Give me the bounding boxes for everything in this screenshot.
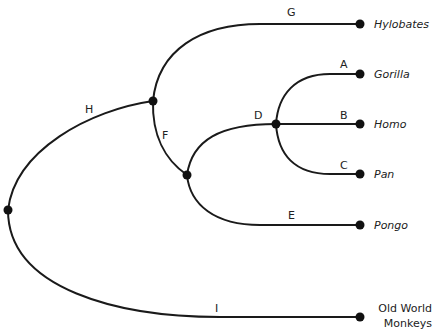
branch-g [153, 24, 360, 101]
branch-e [187, 175, 360, 225]
tip-pan [356, 170, 365, 179]
taxon-owm-line1: Old World [374, 302, 432, 317]
branch-d [187, 124, 276, 175]
branch-label-e: E [288, 210, 295, 221]
taxon-gorilla: Gorilla [374, 69, 410, 80]
taxon-old-world-monkeys: Old World Monkeys [374, 302, 432, 332]
root-node [4, 206, 13, 215]
branch-label-b: B [340, 110, 348, 121]
tip-hylobates [356, 20, 365, 29]
tip-owm [356, 313, 365, 322]
taxon-hylobates: Hylobates [374, 19, 429, 30]
branch-label-g: G [287, 7, 296, 18]
branch-f [153, 101, 187, 175]
tip-homo [356, 120, 365, 129]
branch-h [8, 101, 153, 210]
branch-label-d: D [254, 110, 262, 121]
branch-label-c: C [340, 160, 348, 171]
taxon-homo: Homo [374, 119, 406, 130]
node-h [149, 97, 158, 106]
branch-label-h: H [85, 104, 93, 115]
taxon-pan: Pan [374, 169, 394, 180]
node-d [272, 120, 281, 129]
taxon-pongo: Pongo [374, 220, 408, 231]
branch-label-f: F [162, 130, 168, 141]
branch-label-a: A [340, 59, 348, 70]
node-f [183, 171, 192, 180]
branch-label-i: I [215, 303, 218, 314]
branch-i [8, 210, 360, 317]
taxon-owm-line2: Monkeys [374, 317, 432, 332]
tip-gorilla [356, 70, 365, 79]
tip-pongo [356, 221, 365, 230]
